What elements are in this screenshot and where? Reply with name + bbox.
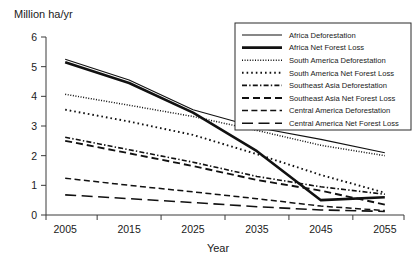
y-tick-label-3: 3 <box>31 120 37 132</box>
y-tick-label-2: 2 <box>31 150 37 162</box>
y-tick-label-0: 0 <box>31 209 37 221</box>
y-axis-title: Million ha/yr <box>14 8 73 20</box>
legend-label-5: Southeast Asia Net Forest Loss <box>289 94 396 103</box>
legend-label-4: Southeast Asia Deforestation <box>289 81 387 90</box>
x-tick-label-2005: 2005 <box>53 223 77 235</box>
y-tick-label-5: 5 <box>31 61 37 73</box>
x-tick-label-2015: 2015 <box>117 223 141 235</box>
forest-loss-line-chart: Million ha/yr 0123456 200520152025203520… <box>0 0 418 268</box>
y-tick-label-4: 4 <box>31 90 37 102</box>
chart-legend: Africa DeforestationAfrica Net Forest Lo… <box>235 23 411 130</box>
x-axis-ticks: 200520152025203520452055 <box>46 215 404 235</box>
y-tick-label-6: 6 <box>31 31 37 43</box>
y-axis-ticks: 0123456 <box>31 31 46 221</box>
series-line-central-america-net-forest-loss <box>65 195 385 212</box>
chart-canvas: Million ha/yr 0123456 200520152025203520… <box>0 0 418 268</box>
x-tick-label-2055: 2055 <box>373 223 397 235</box>
series-line-southeast-asia-deforestation <box>65 137 385 194</box>
legend-label-2: South America Deforestation <box>289 56 386 65</box>
x-tick-label-2035: 2035 <box>245 223 269 235</box>
legend-label-7: Central America Net Forest Loss <box>289 119 399 128</box>
legend-label-6: Central America Deforestation <box>289 106 390 115</box>
x-tick-label-2025: 2025 <box>181 223 205 235</box>
x-tick-label-2045: 2045 <box>309 223 333 235</box>
y-tick-label-1: 1 <box>31 179 37 191</box>
legend-label-1: Africa Net Forest Loss <box>289 43 364 52</box>
legend-label-0: Africa Deforestation <box>289 31 356 40</box>
legend-label-3: South America Net Forest Loss <box>289 69 394 78</box>
x-axis-title: Year <box>207 242 230 254</box>
